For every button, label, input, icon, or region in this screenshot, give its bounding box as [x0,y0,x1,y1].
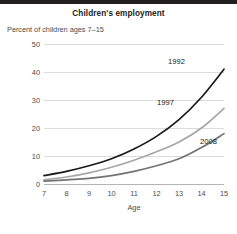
x-axis-tick-label: 12 [152,189,160,198]
x-axis-ticks: 789101112131415 [44,189,224,201]
y-axis-tick-label: 20 [4,124,40,133]
y-axis-tick-label: 40 [4,68,40,77]
series-line-2008 [44,134,224,182]
x-axis-tick-label: 7 [42,189,46,198]
chart-figure: Children's employment Percent of childre… [0,0,237,234]
x-axis-tick-label: 10 [107,189,115,198]
series-label-2008: 2008 [200,137,217,146]
y-axis-tick-label: 10 [4,152,40,161]
x-axis-tick-label: 11 [130,189,138,198]
top-rule [0,0,237,4]
x-axis-tick-label: 13 [175,189,183,198]
y-axis-tick-label: 50 [4,40,40,49]
x-axis-tick-label: 9 [87,189,91,198]
x-axis-tick-label: 8 [64,189,68,198]
axis-baseline [44,184,224,185]
series-label-1997: 1997 [157,98,174,107]
x-axis-tick-label: 15 [220,189,228,198]
series-label-1992: 1992 [168,57,185,66]
x-axis-label: Age [44,203,224,212]
y-axis-ticks: 01020304050 [0,44,40,184]
series-line-1997 [44,108,224,179]
chart-subtitle: Percent of children ages 7–15 [7,25,104,34]
page-title: Children's employment [0,9,237,18]
series-lines [44,44,224,184]
y-axis-tick-label: 0 [4,180,40,189]
x-axis-tick-label: 14 [197,189,205,198]
y-axis-tick-label: 30 [4,96,40,105]
plot-area [44,44,224,184]
